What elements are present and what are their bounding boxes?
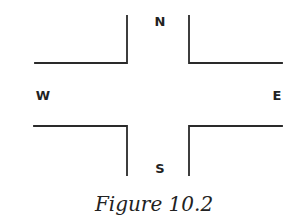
west-label: W [33, 89, 53, 103]
corner-bottom-right [189, 126, 282, 175]
corner-bottom-left [34, 126, 127, 175]
north-label: N [150, 15, 170, 29]
intersection-diagram: N S W E Figure 10.2 [0, 0, 298, 224]
road-lines [0, 0, 298, 224]
south-label: S [150, 162, 170, 176]
corner-top-left [35, 16, 127, 63]
corner-top-right [189, 16, 282, 63]
east-label: E [267, 89, 287, 103]
figure-caption: Figure 10.2 [0, 192, 298, 216]
